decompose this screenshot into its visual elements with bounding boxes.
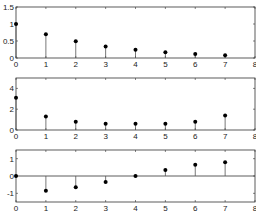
x-tick-label: 8 [253, 60, 256, 69]
y-tick-label: -1 [7, 189, 15, 198]
y-tick-label: 0 [10, 172, 15, 181]
x-tick-label: 3 [103, 132, 108, 141]
x-tick-label: 2 [74, 60, 79, 69]
y-tick-label: 4 [10, 84, 15, 93]
y-tick-label: 0 [10, 54, 15, 63]
x-tick-label: 3 [103, 60, 108, 69]
stem-marker [104, 180, 108, 184]
stem-marker [223, 53, 227, 57]
stem-marker [193, 163, 197, 167]
stem-marker [134, 174, 138, 178]
stem-marker [223, 113, 227, 117]
subplot-2: 012345678024 [10, 78, 256, 141]
x-tick-label: 1 [44, 60, 49, 69]
x-tick-label: 7 [223, 204, 228, 213]
stem-marker [163, 122, 167, 126]
stem-marker [44, 114, 48, 118]
x-tick-label: 4 [133, 132, 138, 141]
x-tick-label: 0 [14, 60, 19, 69]
subplot-1: 01234567800.511.5 [3, 3, 256, 69]
y-tick-label: 1 [10, 20, 15, 29]
stem-marker [134, 48, 138, 52]
x-tick-label: 0 [14, 204, 19, 213]
y-tick-label: 2 [10, 105, 15, 114]
stem-plot-figure: 01234567800.511.5012345678024012345678-1… [0, 0, 256, 222]
y-tick-label: 1 [10, 155, 15, 164]
stem-marker [14, 22, 18, 26]
x-tick-label: 4 [133, 60, 138, 69]
stem-marker [193, 120, 197, 124]
x-tick-label: 2 [74, 132, 79, 141]
stem-marker [223, 160, 227, 164]
x-tick-label: 7 [223, 60, 228, 69]
x-tick-label: 2 [74, 204, 79, 213]
x-tick-label: 5 [163, 60, 168, 69]
stem-marker [134, 122, 138, 126]
x-tick-label: 3 [103, 204, 108, 213]
x-tick-label: 5 [163, 132, 168, 141]
y-tick-label: 1.5 [3, 3, 15, 12]
stem-marker [104, 44, 108, 48]
stem-marker [163, 168, 167, 172]
y-tick-label: 0.5 [3, 37, 15, 46]
x-tick-label: 6 [193, 60, 198, 69]
stem-marker [74, 39, 78, 43]
x-tick-label: 1 [44, 132, 49, 141]
subplot-3: 012345678-101 [7, 150, 256, 213]
stem-marker [14, 174, 18, 178]
stem-marker [14, 96, 18, 100]
x-tick-label: 8 [253, 204, 256, 213]
x-tick-label: 6 [193, 132, 198, 141]
x-tick-label: 0 [14, 132, 19, 141]
stem-marker [193, 52, 197, 56]
stem-marker [74, 185, 78, 189]
x-tick-label: 7 [223, 132, 228, 141]
stem-marker [163, 50, 167, 54]
x-tick-label: 1 [44, 204, 49, 213]
x-tick-label: 8 [253, 132, 256, 141]
x-tick-label: 4 [133, 204, 138, 213]
x-tick-label: 6 [193, 204, 198, 213]
y-tick-label: 0 [10, 126, 15, 135]
x-tick-label: 5 [163, 204, 168, 213]
stem-marker [44, 189, 48, 193]
stem-marker [74, 120, 78, 124]
stem-marker [104, 122, 108, 126]
stem-marker [44, 32, 48, 36]
